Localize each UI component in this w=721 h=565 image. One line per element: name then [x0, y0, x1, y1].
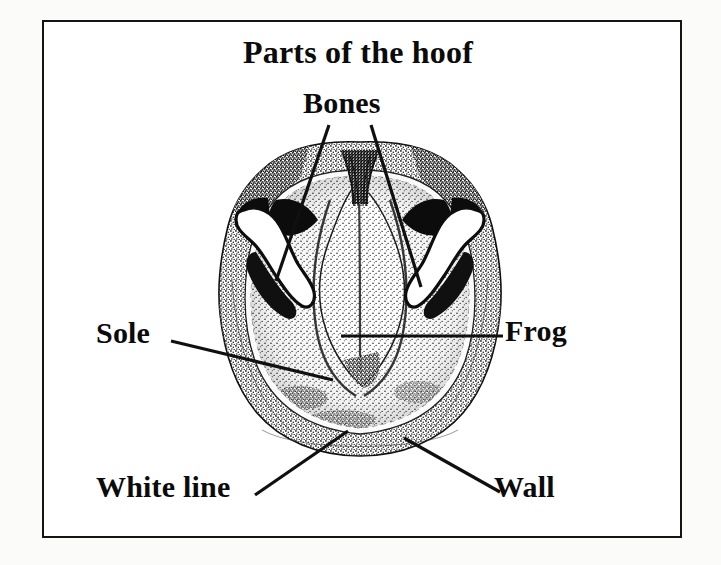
- label-wall: Wall: [494, 472, 555, 502]
- label-sole: Sole: [96, 318, 150, 348]
- label-white-line: White line: [96, 472, 231, 502]
- label-frog: Frog: [505, 316, 567, 346]
- label-bones: Bones: [303, 88, 381, 118]
- figure-page: Parts of the hoof Bones Sole Frog White …: [0, 0, 721, 565]
- figure-title: Parts of the hoof: [243, 36, 473, 68]
